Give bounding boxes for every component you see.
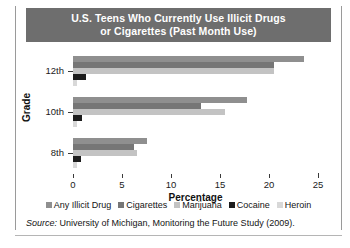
bar-group-8th: [73, 138, 318, 172]
y-tick-label-10th: 10th: [0, 106, 64, 117]
legend-swatch-icon: [46, 202, 52, 208]
bar-8th-heroin: [73, 162, 77, 168]
y-tick-label-12th: 12th: [0, 65, 64, 76]
y-tick-12th: [68, 71, 73, 72]
frame-bottom-rule: [15, 235, 342, 236]
legend-swatch-icon: [229, 202, 235, 208]
x-tick-label-10: 10: [156, 179, 186, 190]
chart-title-line-1: U.S. Teens Who Currently Use Illicit Dru…: [71, 12, 286, 25]
bar-12th-marijuana: [73, 68, 274, 74]
legend-item-any-illicit-drug[interactable]: Any Illicit Drug: [46, 200, 112, 210]
x-tick-label-5: 5: [107, 179, 137, 190]
plot-area: [73, 50, 318, 174]
legend-swatch-icon: [118, 202, 124, 208]
legend-swatch-icon: [277, 202, 283, 208]
chart-legend: Any Illicit DrugCigarettesMarijuanaCocai…: [16, 200, 341, 210]
y-tick-8th: [68, 153, 73, 154]
legend-label: Marijuana: [182, 200, 222, 210]
bar-10th-heroin: [73, 121, 77, 127]
bar-10th-marijuana: [73, 109, 225, 115]
source-text: University of Michigan, Monitoring the F…: [60, 218, 295, 228]
legend-label: Any Illicit Drug: [54, 200, 112, 210]
bar-12th-heroin: [73, 80, 77, 86]
source-note: Source: University of Michigan, Monitori…: [26, 218, 295, 228]
x-tick-0: [73, 174, 74, 178]
y-tick-10th: [68, 112, 73, 113]
x-tick-label-20: 20: [254, 179, 284, 190]
x-tick-label-0: 0: [58, 179, 88, 190]
plot-wrapper: Grade 12th10th8th 0510152025 Percentage: [0, 42, 350, 182]
legend-label: Cocaine: [237, 200, 270, 210]
source-label: Source:: [26, 218, 57, 228]
x-tick-label-25: 25: [303, 179, 333, 190]
x-tick-10: [171, 174, 172, 178]
bar-group-12th: [73, 56, 318, 90]
chart-title-line-2: or Cigarettes (Past Month Use): [100, 25, 256, 38]
legend-item-heroin[interactable]: Heroin: [277, 200, 312, 210]
legend-item-marijuana[interactable]: Marijuana: [174, 200, 222, 210]
legend-item-cigarettes[interactable]: Cigarettes: [118, 200, 167, 210]
y-tick-label-8th: 8th: [0, 147, 64, 158]
chart-title-banner: U.S. Teens Who Currently Use Illicit Dru…: [26, 8, 331, 42]
bar-8th-marijuana: [73, 150, 137, 156]
x-tick-label-15: 15: [205, 179, 235, 190]
chart-figure: U.S. Teens Who Currently Use Illicit Dru…: [0, 0, 350, 248]
legend-swatch-icon: [174, 202, 180, 208]
x-tick-25: [318, 174, 319, 178]
legend-label: Heroin: [285, 200, 312, 210]
legend-item-cocaine[interactable]: Cocaine: [229, 200, 270, 210]
x-tick-20: [269, 174, 270, 178]
x-tick-15: [220, 174, 221, 178]
x-tick-5: [122, 174, 123, 178]
legend-label: Cigarettes: [126, 200, 167, 210]
bar-group-10th: [73, 97, 318, 131]
